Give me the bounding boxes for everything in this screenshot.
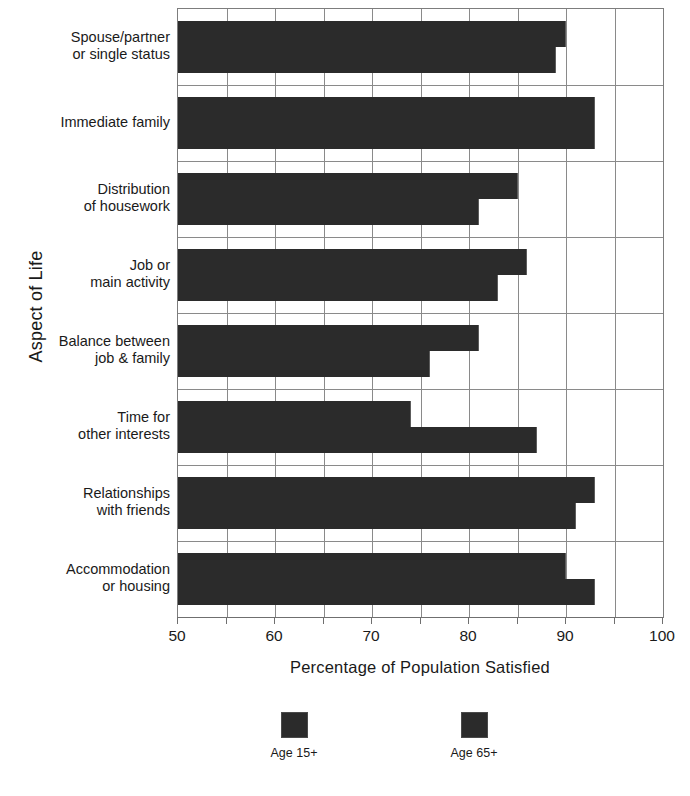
x-axis-tick-label: 70 <box>341 627 401 645</box>
bar <box>178 249 527 275</box>
bar <box>178 21 566 47</box>
x-axis-tick <box>614 617 615 624</box>
x-axis-tick <box>468 617 469 624</box>
bar <box>178 275 498 301</box>
legend-label: Age 65+ <box>399 746 549 760</box>
bars-layer <box>178 9 663 617</box>
bar <box>178 199 479 225</box>
x-axis-tick-label: 100 <box>632 627 690 645</box>
x-axis-title: Percentage of Population Satisfied <box>177 658 663 677</box>
y-axis-category-labels: Spouse/partner or single statusImmediate… <box>28 8 170 616</box>
x-axis-tick-label: 90 <box>535 627 595 645</box>
y-axis-category-label: Distribution of housework <box>28 181 170 215</box>
x-axis-tick <box>226 617 227 624</box>
legend-label: Age 15+ <box>219 746 369 760</box>
bar <box>178 325 479 351</box>
x-axis-tick <box>323 617 324 624</box>
x-axis-tick-label: 60 <box>244 627 304 645</box>
legend-item: Age 65+ <box>399 712 549 760</box>
chart-legend: Age 15+Age 65+ <box>177 712 663 782</box>
bar <box>178 579 595 605</box>
bar <box>178 503 576 529</box>
bar-chart-figure: Aspect of Life Spouse/partner or single … <box>0 0 690 796</box>
legend-swatch <box>281 712 308 738</box>
x-axis-tick-label: 50 <box>147 627 207 645</box>
x-axis-tick-label: 80 <box>438 627 498 645</box>
y-axis-category-label: Immediate family <box>28 114 170 131</box>
x-axis-ticks <box>177 617 663 625</box>
bar <box>178 97 595 123</box>
x-axis-tick <box>420 617 421 624</box>
y-axis-category-label: Time for other interests <box>28 409 170 443</box>
bar <box>178 553 566 579</box>
bar <box>178 427 537 453</box>
x-axis-tick <box>177 617 178 624</box>
x-axis-tick <box>371 617 372 624</box>
bar <box>178 123 595 149</box>
x-axis-tick <box>565 617 566 624</box>
bar <box>178 477 595 503</box>
x-axis-tick-labels: 5060708090100 <box>0 627 690 649</box>
plot-area <box>177 8 664 618</box>
y-axis-category-label: Accommodation or housing <box>28 561 170 595</box>
bar <box>178 47 556 73</box>
bar <box>178 401 411 427</box>
x-axis-tick <box>662 617 663 624</box>
x-axis-tick <box>274 617 275 624</box>
legend-item: Age 15+ <box>219 712 369 760</box>
bar <box>178 173 518 199</box>
y-axis-category-label: Balance between job & family <box>28 333 170 367</box>
x-axis-tick <box>517 617 518 624</box>
y-axis-category-label: Spouse/partner or single status <box>28 29 170 63</box>
legend-swatch <box>461 712 488 738</box>
y-axis-category-label: Job or main activity <box>28 257 170 291</box>
bar <box>178 351 430 377</box>
y-axis-category-label: Relationships with friends <box>28 485 170 519</box>
